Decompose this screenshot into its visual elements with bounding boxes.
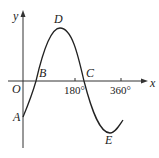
y-axis-label: y	[12, 9, 19, 23]
y-axis-arrow-icon	[21, 10, 26, 17]
tick-label-180: 180°	[64, 84, 85, 96]
x-axis-label: x	[149, 76, 156, 90]
tick-label-360: 360°	[110, 84, 131, 96]
graph-figure: y x O A B C D E 180° 360°	[0, 0, 159, 158]
x-axis-arrow-icon	[141, 79, 148, 84]
point-d-label: D	[53, 12, 63, 26]
point-b-label: B	[39, 66, 47, 80]
graph-svg: y x O A B C D E 180° 360°	[0, 0, 159, 158]
point-e-label: E	[104, 133, 113, 147]
point-a-label: A	[12, 110, 21, 124]
origin-label: O	[12, 82, 21, 96]
point-c-label: C	[86, 66, 95, 80]
